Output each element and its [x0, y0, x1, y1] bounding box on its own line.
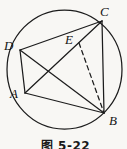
point-label-D: D [3, 38, 14, 53]
figure-5-22: ABCDE 图 5-22 [0, 0, 127, 149]
segment-EB-dashed [79, 43, 104, 113]
point-label-C: C [100, 4, 109, 19]
circumscribed-circle [7, 10, 122, 129]
point-label-B: B [109, 113, 117, 128]
segment-DB [20, 50, 104, 113]
segment-DC [20, 21, 102, 50]
figure-caption: 图 5-22 [0, 136, 127, 149]
point-label-A: A [9, 86, 18, 101]
geometry-figure: ABCDE [0, 0, 127, 136]
point-label-E: E [64, 32, 73, 47]
segment-CB [102, 21, 104, 113]
segment-AB [25, 93, 104, 113]
segment-DA [20, 50, 25, 93]
